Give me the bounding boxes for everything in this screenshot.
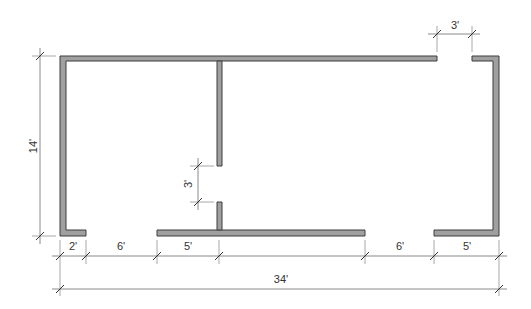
- dimension-interior-door: 3': [182, 158, 214, 210]
- interior-door-label: 3': [182, 180, 194, 188]
- top-door-label: 3': [451, 19, 459, 31]
- dimension-top-door: 3': [428, 19, 480, 52]
- segment-label-2: 6': [117, 240, 125, 252]
- dimension-height-14: 14': [27, 48, 56, 244]
- interior-wall-upper: [217, 61, 222, 166]
- segment-label-1: 2': [69, 240, 77, 252]
- dimension-width-34: 34': [52, 273, 507, 293]
- floor-plan-drawing: 14' 3' 3': [0, 0, 531, 309]
- outer-wall-bottom-middle: [157, 230, 365, 236]
- interior-wall-lower: [217, 202, 222, 230]
- width-label: 34': [274, 273, 288, 285]
- dimension-bottom-segments: 2' 6' 5' 6' 5': [52, 240, 507, 296]
- segment-label-3: 5': [184, 240, 192, 252]
- outer-wall-left-top: [60, 56, 437, 236]
- walls: [60, 56, 499, 236]
- segment-label-4: 6': [396, 240, 404, 252]
- height-label: 14': [27, 139, 39, 153]
- segment-label-5: 5': [463, 240, 471, 252]
- outer-wall-top-right: [434, 56, 499, 236]
